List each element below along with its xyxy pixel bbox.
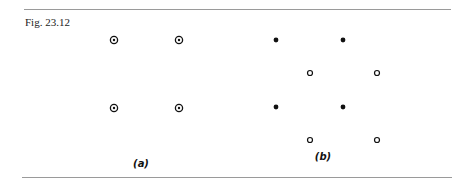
circle-dot-marker-icon <box>110 104 117 111</box>
filled-dot-marker-icon <box>341 38 346 43</box>
filled-dot-marker-icon <box>341 105 346 110</box>
filled-dot-marker-icon <box>274 38 279 43</box>
circle-dot-marker-icon <box>175 36 182 43</box>
circle-dot-marker-icon <box>175 104 182 111</box>
open-circle-marker-icon <box>308 138 313 143</box>
panel-b-label: (b) <box>315 151 331 162</box>
filled-dot-marker-icon <box>274 105 279 110</box>
open-circle-marker-icon <box>375 71 380 76</box>
open-circle-marker-icon <box>375 138 380 143</box>
open-circle-marker-icon <box>308 71 313 76</box>
panel-a-label: (a) <box>133 158 149 169</box>
figure-markers <box>0 0 476 190</box>
circle-dot-marker-icon <box>110 36 117 43</box>
